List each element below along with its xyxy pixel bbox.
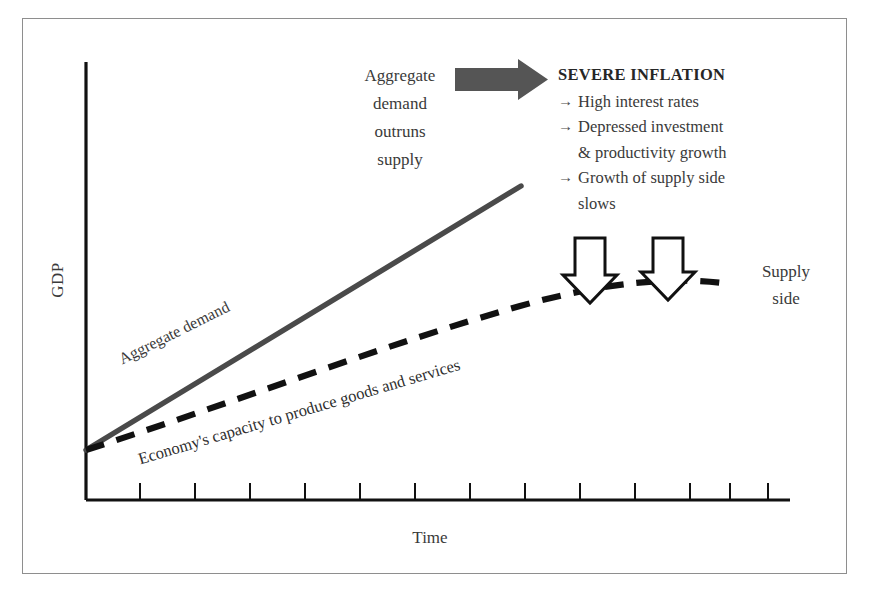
y-axis-label: GDP xyxy=(48,250,68,310)
cause-line-4: supply xyxy=(330,146,470,174)
effect-item-1-text: High interest rates xyxy=(578,92,699,111)
bullet-arrow-icon-3: → xyxy=(558,165,573,191)
cause-line-3: outruns xyxy=(330,118,470,146)
effects-annotation: SEVERE INFLATION → High interest rates →… xyxy=(558,62,788,216)
cause-annotation: Aggregate demand outruns supply xyxy=(330,62,470,174)
effect-item-3: → Growth of supply side xyxy=(558,165,788,191)
bullet-arrow-icon-2: → xyxy=(558,114,573,140)
bullet-arrow-icon-1: → xyxy=(558,89,573,115)
effect-item-1: → High interest rates xyxy=(558,89,788,115)
cause-line-1: Aggregate xyxy=(330,62,470,90)
supply-side-label: Supply side xyxy=(738,258,834,312)
effect-item-2-text: Depressed investment xyxy=(578,117,723,136)
effect-item-2: → Depressed investment xyxy=(558,114,788,140)
x-axis-label: Time xyxy=(370,528,490,548)
cause-line-2: demand xyxy=(330,90,470,118)
supply-side-line-1: Supply xyxy=(738,258,834,285)
supply-side-line-2: side xyxy=(738,285,834,312)
effect-item-2-continuation: & productivity growth xyxy=(558,140,788,166)
effect-item-3-continuation: slows xyxy=(558,191,788,217)
effect-item-3-text: Growth of supply side xyxy=(578,168,725,187)
figure-container: Aggregate demand outruns supply SEVERE I… xyxy=(0,0,871,604)
effects-title: SEVERE INFLATION xyxy=(558,62,788,88)
